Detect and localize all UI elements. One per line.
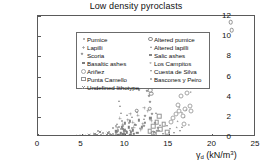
data-point bbox=[158, 130, 160, 132]
y-axis-tick bbox=[38, 56, 41, 57]
data-point bbox=[143, 118, 145, 120]
data-point bbox=[136, 111, 138, 113]
data-point bbox=[166, 125, 168, 127]
data-point bbox=[120, 112, 122, 114]
data-point bbox=[128, 122, 130, 124]
m-osq-icon bbox=[81, 77, 86, 82]
legend-label: Cuesta de Silva bbox=[154, 68, 197, 75]
data-point bbox=[141, 126, 143, 129]
legend-item[interactable]: Bascones y Peiro bbox=[147, 75, 211, 83]
m-dot-icon bbox=[150, 78, 152, 80]
data-point bbox=[110, 134, 113, 136]
data-point bbox=[118, 100, 120, 102]
data-point bbox=[143, 106, 146, 109]
legend-column-left: PumiceLapilliScoriaBasaltic ashesAriñezP… bbox=[80, 35, 148, 91]
x-axis-title: γd (kN/m3) bbox=[196, 150, 237, 160]
x-tick-label: 0 bbox=[27, 139, 47, 148]
y-tick-label: 6 bbox=[213, 71, 231, 80]
legend-marker-icon bbox=[147, 52, 154, 59]
legend-item[interactable]: Los Campitos bbox=[147, 59, 211, 67]
legend-label: Undefined lithotype bbox=[87, 84, 139, 91]
legend-item[interactable]: Ariñez bbox=[80, 67, 148, 75]
data-point bbox=[124, 122, 126, 125]
data-point bbox=[168, 120, 173, 125]
legend-label: Altered pumice bbox=[154, 36, 195, 43]
data-point bbox=[112, 127, 114, 129]
data-point bbox=[151, 113, 154, 116]
x-tick-label: 25 bbox=[245, 139, 265, 148]
legend-marker-icon bbox=[147, 36, 154, 43]
m-dia-icon bbox=[81, 52, 84, 55]
chart-title: Low density pyroclasts bbox=[0, 1, 272, 11]
data-point bbox=[134, 124, 136, 127]
legend-box: PumiceLapilliScoriaBasaltic ashesAriñezP… bbox=[76, 32, 210, 89]
m-x-icon bbox=[82, 86, 85, 89]
legend-marker-icon bbox=[80, 36, 87, 43]
data-point bbox=[119, 105, 121, 107]
data-point bbox=[117, 129, 119, 131]
data-point bbox=[97, 130, 99, 132]
legend-label: Ariñez bbox=[87, 68, 104, 75]
data-point bbox=[133, 133, 135, 135]
legend-label: Los Campitos bbox=[154, 60, 191, 67]
y-tick-label: 8 bbox=[213, 51, 231, 60]
legend-label: Lapilli bbox=[87, 44, 102, 51]
legend-marker-icon bbox=[80, 68, 87, 75]
x-axis-unit-close: ) bbox=[234, 150, 237, 160]
legend-label: Altered lapilli bbox=[154, 44, 188, 51]
legend-label: Salic ashes bbox=[154, 52, 185, 59]
legend-item[interactable]: Scoria bbox=[80, 51, 148, 59]
m-dot-icon bbox=[83, 38, 85, 40]
x-axis-unit-open: (kN/m bbox=[204, 150, 231, 160]
x-tick-label: 5 bbox=[71, 139, 91, 148]
legend-item[interactable]: Pumice bbox=[80, 35, 148, 43]
legend-label: Bascones y Peiro bbox=[154, 76, 201, 83]
legend-item[interactable]: Cuesta de Silva bbox=[147, 67, 211, 75]
data-point bbox=[126, 114, 128, 116]
data-point bbox=[144, 122, 146, 125]
legend-marker-icon bbox=[80, 84, 87, 91]
data-point bbox=[162, 133, 164, 135]
x-axis-tick bbox=[38, 134, 39, 136]
legend-item[interactable]: Punta Camello bbox=[80, 75, 148, 83]
legend-marker-icon bbox=[147, 76, 154, 83]
x-tick-label: 15 bbox=[158, 139, 178, 148]
y-axis-tick bbox=[38, 36, 41, 37]
legend-item[interactable]: Basaltic ashes bbox=[80, 59, 148, 67]
data-point bbox=[179, 130, 181, 132]
legend-marker-icon bbox=[147, 68, 154, 75]
legend-column-right: Altered pumiceAltered lapilliSalic ashes… bbox=[147, 35, 211, 83]
x-tick-label: 20 bbox=[201, 139, 221, 148]
data-point bbox=[169, 128, 171, 130]
legend-marker-icon bbox=[80, 60, 87, 67]
m-odot-icon bbox=[148, 37, 153, 42]
data-point bbox=[102, 132, 104, 134]
data-point bbox=[81, 135, 84, 136]
y-axis-tick bbox=[38, 77, 41, 78]
data-point bbox=[157, 114, 162, 119]
m-bar-icon bbox=[149, 54, 151, 57]
legend-item[interactable]: Altered lapilli bbox=[147, 43, 211, 51]
data-point bbox=[159, 124, 161, 126]
data-point bbox=[175, 126, 178, 129]
data-point bbox=[129, 134, 131, 136]
legend-marker-icon bbox=[147, 60, 154, 67]
data-point bbox=[138, 119, 140, 122]
legend-item[interactable]: Altered pumice bbox=[147, 35, 211, 43]
legend-label: Scoria bbox=[87, 52, 104, 59]
data-point bbox=[123, 129, 125, 132]
m-tdn-icon bbox=[150, 70, 152, 72]
y-tick-label: 10 bbox=[213, 31, 231, 40]
legend-item[interactable]: Lapilli bbox=[80, 43, 148, 51]
legend-label: Pumice bbox=[87, 36, 107, 43]
y-axis-tick bbox=[38, 97, 41, 98]
legend-item[interactable]: Salic ashes bbox=[147, 51, 211, 59]
data-point bbox=[136, 132, 138, 134]
data-point bbox=[155, 112, 157, 114]
data-point bbox=[176, 120, 179, 123]
data-point bbox=[93, 133, 95, 135]
legend-item[interactable]: Undefined lithotype bbox=[80, 83, 148, 91]
x-tick-label: 10 bbox=[114, 139, 134, 148]
data-point bbox=[189, 108, 194, 113]
x-axis-tick bbox=[82, 134, 83, 136]
